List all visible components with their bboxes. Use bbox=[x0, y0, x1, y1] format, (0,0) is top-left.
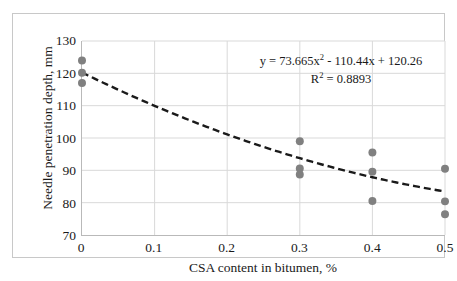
x-tick-label: 0.4 bbox=[364, 241, 381, 255]
equation-lead: y = 73.665x bbox=[260, 54, 320, 68]
y-axis-title: Needle penetration depth, mm bbox=[40, 31, 56, 226]
r-squared-text: R2 = 0.8893 bbox=[245, 70, 437, 88]
x-tick-label: 0 bbox=[78, 241, 85, 255]
x-axis-title: CSA content in bitumen, % bbox=[81, 260, 445, 276]
x-tick-label: 0.5 bbox=[437, 241, 454, 255]
chart-frame: 708090100110120130 00.10.20.30.40.5 CSA … bbox=[12, 13, 445, 258]
x-tick-label: 0.2 bbox=[218, 241, 235, 255]
x-tick-label: 0.3 bbox=[291, 241, 308, 255]
x-axis-tick-labels: 00.10.20.30.40.5 bbox=[81, 241, 445, 259]
r-squared-value: = 0.8893 bbox=[323, 72, 371, 86]
trendline-equation-annotation: y = 73.665x2 - 110.44x + 120.26 R2 = 0.8… bbox=[245, 52, 437, 88]
equation-text: y = 73.665x2 - 110.44x + 120.26 bbox=[245, 52, 437, 70]
x-tick-label: 0.1 bbox=[145, 241, 162, 255]
r-squared-label: R bbox=[311, 72, 319, 86]
equation-tail: - 110.44x + 120.26 bbox=[324, 54, 422, 68]
y-tick-label: 70 bbox=[19, 229, 81, 243]
